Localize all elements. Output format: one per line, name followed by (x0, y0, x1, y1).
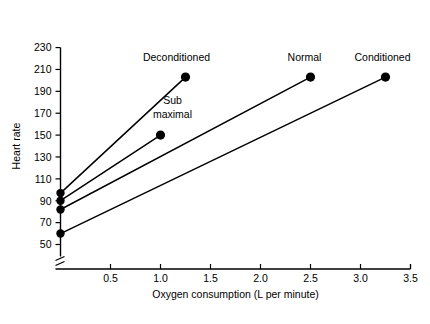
x-tick-label: 2.5 (303, 272, 318, 284)
y-tick-label: 150 (34, 129, 52, 141)
x-axis: 0.51.01.52.02.53.03.5 (56, 264, 418, 284)
series-annotation-label: maximal (153, 108, 192, 120)
y-tick-label: 230 (34, 41, 52, 53)
series-end-dot (381, 73, 390, 82)
series-line (61, 77, 311, 209)
y-tick-label: 70 (40, 216, 52, 228)
series-start-dot (56, 197, 64, 205)
series-annotation-label: Normal (288, 51, 322, 63)
y-tick-label: 90 (40, 195, 52, 207)
series-start-dot (56, 229, 64, 237)
series-annotation-label: Sub (163, 94, 182, 106)
series-end-dot (156, 131, 165, 140)
y-axis-break-icon (56, 257, 65, 266)
series-lines (56, 73, 390, 238)
y-tick-label: 170 (34, 107, 52, 119)
series-annotation-label: Deconditioned (143, 51, 210, 63)
series-end-dot (181, 73, 190, 82)
y-tick-label: 210 (34, 63, 52, 75)
series-annotation-label: Conditioned (354, 51, 410, 63)
y-tick-label: 130 (34, 151, 52, 163)
heart-rate-oxygen-line-chart: 507090110130150170190210230 0.51.01.52.0… (0, 0, 430, 324)
y-tick-label: 50 (40, 238, 52, 250)
x-tick-label: 1.0 (153, 272, 168, 284)
x-tick-label: 0.5 (103, 272, 118, 284)
x-tick-label: 3.5 (403, 272, 418, 284)
y-tick-label: 110 (35, 173, 52, 185)
y-axis-title: Heart rate (10, 123, 22, 170)
series-line (61, 77, 386, 233)
series-line (61, 135, 161, 201)
series-end-dot (306, 73, 315, 82)
x-axis-title: Oxygen consumption (L per minute) (152, 288, 319, 300)
series-start-dot (56, 205, 64, 213)
x-tick-label: 3.0 (353, 272, 368, 284)
series-start-dot (56, 189, 64, 197)
x-tick-label: 2.0 (253, 272, 268, 284)
y-tick-label: 190 (34, 85, 52, 97)
chart-container: 507090110130150170190210230 0.51.01.52.0… (0, 0, 430, 324)
x-tick-label: 1.5 (203, 272, 218, 284)
